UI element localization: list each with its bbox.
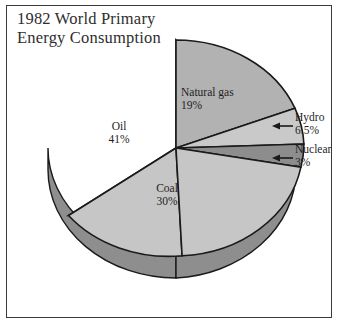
pie-chart: Oil 41% Coal 30% Natural gas 19% Hydro 6…: [0, 0, 340, 325]
nuclear-label-name: Nuclear: [295, 143, 332, 155]
hydro-label-value: 6.5%: [295, 124, 319, 136]
hydro-label-name: Hydro: [295, 111, 325, 124]
oil-label-name: Oil: [112, 120, 127, 132]
coal-label-name: Coal: [156, 182, 178, 194]
natural-gas-label-name: Natural gas: [181, 86, 234, 99]
pie-slice-coal-lower[interactable]: [176, 148, 301, 256]
nuclear-label-value: 3%: [295, 156, 311, 168]
natural-gas-label-value: 19%: [181, 99, 203, 111]
oil-label-value: 41%: [108, 133, 130, 145]
coal-label-value: 30%: [156, 195, 178, 207]
chart-page: 1982 World Primary Energy Consumption: [0, 0, 340, 325]
